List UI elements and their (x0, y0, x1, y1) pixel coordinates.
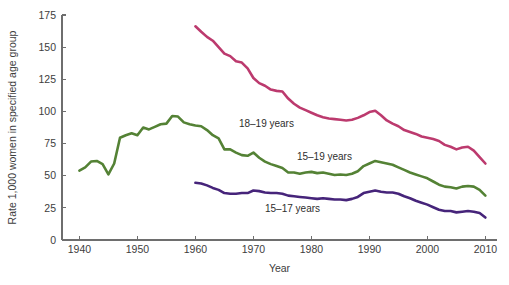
series-label-15-17-years: 15–17 years (265, 203, 320, 214)
chart-container: 0255075100125150175 19401950196019701980… (0, 0, 509, 285)
x-tick-label: 1970 (242, 243, 266, 255)
line-chart-svg: 0255075100125150175 19401950196019701980… (0, 0, 509, 285)
x-axis-title: Year (269, 262, 291, 274)
y-tick-label: 125 (38, 73, 56, 85)
y-tick-label: 175 (38, 9, 56, 21)
x-tick-label: 2010 (474, 243, 498, 255)
series-label-18-19-years: 18–19 years (239, 118, 294, 129)
x-tick-label: 1980 (300, 243, 324, 255)
y-tick-label: 50 (44, 169, 56, 181)
y-tick-label: 75 (44, 137, 56, 149)
y-tick-label: 0 (50, 234, 56, 246)
x-tick-label: 1950 (126, 243, 150, 255)
series-line-18-19-years (195, 26, 485, 163)
x-tick-label: 1990 (358, 243, 382, 255)
series-line-15-17-years (195, 183, 485, 218)
y-tick-label: 150 (38, 41, 56, 53)
x-axis-ticks: 19401950196019701980199020002010 (68, 236, 498, 255)
y-tick-label: 25 (44, 202, 56, 214)
x-tick-label: 2000 (416, 243, 440, 255)
x-tick-label: 1940 (68, 243, 92, 255)
y-axis-title: Rate 1,000 women in specified age group (6, 30, 18, 224)
y-tick-label: 100 (38, 105, 56, 117)
series-label-15-19-years: 15–19 years (297, 151, 352, 162)
x-tick-label: 1960 (184, 243, 208, 255)
